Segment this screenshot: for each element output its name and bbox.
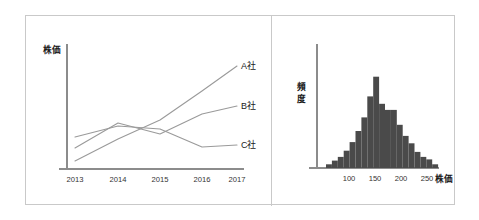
histogram-bar xyxy=(326,164,332,168)
histogram-bar xyxy=(344,151,350,168)
line-chart-panel: 株価 A社 B社 C社 2013 2014 2015 2016 2017 xyxy=(26,16,271,204)
series-line-b xyxy=(75,106,237,148)
histogram-bar xyxy=(350,142,356,168)
line-chart-x-tick-2014: 2014 xyxy=(110,175,127,184)
histogram-bar xyxy=(415,152,421,168)
series-label-c: C社 xyxy=(241,139,257,150)
line-chart-x-tick-2013: 2013 xyxy=(67,175,84,184)
line-chart-x-tick-2015: 2015 xyxy=(152,175,169,184)
histogram-x-tick-100: 100 xyxy=(343,174,356,183)
histogram-bars xyxy=(326,77,438,168)
histogram-x-tick-150: 150 xyxy=(369,174,382,183)
histogram-bar xyxy=(397,125,403,168)
series-line-c xyxy=(75,126,237,147)
series-label-a: A社 xyxy=(241,60,256,71)
series-label-b: B社 xyxy=(241,100,256,111)
histogram-y-axis-title-char2: 度 xyxy=(297,93,306,104)
histogram-bar xyxy=(403,136,409,168)
histogram-bar xyxy=(332,161,338,168)
histogram-svg: 頻 度 xyxy=(271,16,456,206)
line-chart-svg: 株価 A社 B社 C社 2013 2014 2015 2016 2017 xyxy=(26,16,271,206)
line-chart-y-axis-title: 株価 xyxy=(43,44,61,55)
histogram-bar xyxy=(409,143,415,168)
histogram-bar xyxy=(373,77,379,168)
figure-frame: 株価 A社 B社 C社 2013 2014 2015 2016 2017 xyxy=(25,15,455,205)
histogram-x-tick-200: 200 xyxy=(395,174,408,183)
histogram-bar xyxy=(420,157,426,168)
histogram-bar xyxy=(338,157,344,168)
histogram-x-axis-title: 株価 xyxy=(435,173,453,184)
histogram-bar xyxy=(432,164,438,168)
histogram-bar xyxy=(361,117,367,168)
histogram-y-axis-title-char1: 頻 xyxy=(297,81,306,92)
histogram-bar xyxy=(356,131,362,168)
line-chart-x-tick-2017: 2017 xyxy=(229,175,246,184)
histogram-bar xyxy=(379,104,385,168)
histogram-bar xyxy=(426,159,432,168)
histogram-bar xyxy=(391,110,397,168)
histogram-bar xyxy=(385,110,391,168)
histogram-panel: 頻 度 xyxy=(271,16,456,204)
line-chart-x-tick-2016: 2016 xyxy=(194,175,211,184)
figure-root: 株価 A社 B社 C社 2013 2014 2015 2016 2017 xyxy=(0,0,479,220)
histogram-x-tick-250: 250 xyxy=(421,174,434,183)
histogram-bar xyxy=(367,96,373,168)
